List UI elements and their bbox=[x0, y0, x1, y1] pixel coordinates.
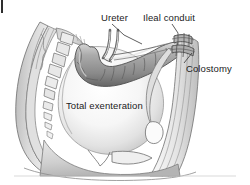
label-ureter: Ureter bbox=[101, 13, 128, 23]
anatomy-artwork bbox=[0, 0, 250, 185]
label-ileal-conduit: Ileal conduit bbox=[143, 13, 195, 23]
corner-registration-mark bbox=[1, 0, 3, 13]
label-colostomy: Colostomy bbox=[186, 64, 232, 74]
medical-illustration-figure: Ureter Ileal conduit Colostomy Total exe… bbox=[0, 0, 250, 185]
label-total-exenteration: Total exenteration bbox=[66, 101, 143, 111]
obturator-foramen bbox=[145, 122, 163, 144]
